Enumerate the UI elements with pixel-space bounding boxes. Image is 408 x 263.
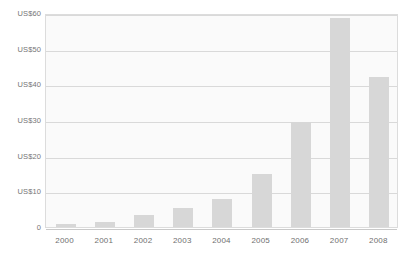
x-tick-label-2001: 2001 <box>84 236 123 246</box>
bar-2008[interactable] <box>369 77 389 227</box>
bar-slot-2003 <box>164 15 203 227</box>
y-tick-label-3: US$30 <box>0 117 41 125</box>
bar-chart: tt US$60US$50US$40US$30US$20US$100 20002… <box>0 0 408 263</box>
x-axis-labels: 200020012002200320042005200620072008 <box>45 236 398 250</box>
bar-slot-2000 <box>46 15 85 227</box>
y-tick-label-4: US$20 <box>0 153 41 161</box>
bar-slot-2006 <box>281 15 320 227</box>
bar-2006[interactable] <box>291 122 311 227</box>
bar-2004[interactable] <box>212 199 232 227</box>
y-tick-label-0: US$60 <box>0 10 41 18</box>
bar-2005[interactable] <box>252 174 272 228</box>
bar-slot-2005 <box>242 15 281 227</box>
bar-2007[interactable] <box>330 18 350 227</box>
bar-2003[interactable] <box>173 208 193 227</box>
x-tick-label-2003: 2003 <box>163 236 202 246</box>
bar-2002[interactable] <box>134 215 154 227</box>
x-tick-label-2000: 2000 <box>45 236 84 246</box>
x-tick-label-2002: 2002 <box>123 236 162 246</box>
bar-slot-2002 <box>124 15 163 227</box>
bar-2001[interactable] <box>95 222 115 227</box>
bar-slot-2001 <box>85 15 124 227</box>
plot-area <box>45 14 398 228</box>
bar-2000[interactable] <box>56 224 76 227</box>
y-tick-label-5: US$10 <box>0 188 41 196</box>
x-tick-label-2008: 2008 <box>359 236 398 246</box>
x-tick-label-2007: 2007 <box>320 236 359 246</box>
bar-slot-2008 <box>360 15 399 227</box>
x-tick-label-2004: 2004 <box>202 236 241 246</box>
x-tick-label-2005: 2005 <box>241 236 280 246</box>
bars-layer <box>46 15 397 227</box>
y-tick-label-2: US$40 <box>0 81 41 89</box>
y-tick-label-1: US$50 <box>0 46 41 54</box>
x-tick-label-2006: 2006 <box>280 236 319 246</box>
bar-slot-2007 <box>321 15 360 227</box>
bar-slot-2004 <box>203 15 242 227</box>
y-axis-labels: US$60US$50US$40US$30US$20US$100 <box>0 0 41 263</box>
gridline-0 <box>46 229 397 230</box>
y-tick-label-6: 0 <box>0 224 41 232</box>
